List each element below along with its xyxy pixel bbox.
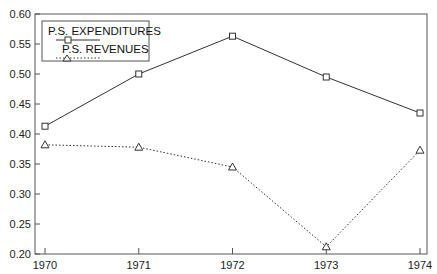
triangle-marker-icon [416,146,424,153]
triangle-marker-icon [135,143,143,150]
square-marker-icon [230,33,236,39]
y-tick-label: 0.55 [10,38,31,50]
square-marker-icon [136,71,142,77]
line-chart: 0.200.250.300.350.400.450.500.550.601970… [0,0,437,274]
square-marker-icon [417,110,423,116]
x-tick-label: 1973 [314,259,338,271]
y-tick-label: 0.20 [10,248,31,260]
y-tick-label: 0.50 [10,68,31,80]
x-tick-label: 1971 [127,259,151,271]
series-layer [41,33,424,250]
y-tick-label: 0.40 [10,128,31,140]
y-tick-label: 0.45 [10,98,31,110]
square-marker-icon [42,123,48,129]
square-marker-icon [323,74,329,80]
x-tick-label: 1970 [33,259,57,271]
legend-label-expenditures: P.S. EXPENDITURES [48,25,161,37]
y-tick-label: 0.35 [10,158,31,170]
y-tick-label: 0.60 [10,8,31,20]
triangle-marker-icon [41,141,49,148]
legend-label-revenues: P.S. REVENUES [62,43,149,55]
x-tick-label: 1974 [408,259,432,271]
y-tick-label: 0.30 [10,188,31,200]
y-tick-label: 0.25 [10,218,31,230]
legend: P.S. EXPENDITURES P.S. REVENUES [42,21,161,61]
x-tick-label: 1972 [220,259,244,271]
series-line [45,145,420,247]
